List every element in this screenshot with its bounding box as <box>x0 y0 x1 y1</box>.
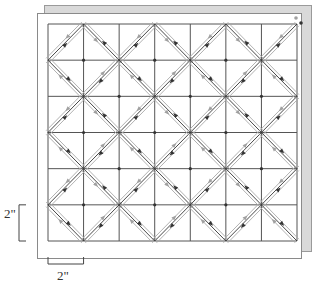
horizontal-dimension-label: 2" <box>57 268 69 282</box>
crossing-dot <box>260 167 263 170</box>
crossing-dot <box>189 167 192 170</box>
vertical-dimension-bracket <box>19 205 26 241</box>
crossing-dot <box>153 131 156 134</box>
crossing-dot <box>224 59 227 62</box>
crossing-dot <box>82 203 85 206</box>
crossing-dot <box>189 95 192 98</box>
crossing-dot <box>224 131 227 134</box>
crossing-dot <box>224 203 227 206</box>
crossing-dot <box>82 59 85 62</box>
crossing-dot <box>118 95 121 98</box>
vertical-dimension-label: 2" <box>4 206 16 222</box>
start-marker-icon <box>294 16 298 20</box>
crossing-dot <box>82 131 85 134</box>
crossing-dot <box>153 59 156 62</box>
crossing-dot <box>260 95 263 98</box>
crossing-dot <box>118 167 121 170</box>
crossing-dot <box>153 203 156 206</box>
quilting-diagram <box>0 0 319 282</box>
start-marker-icon <box>299 21 303 25</box>
